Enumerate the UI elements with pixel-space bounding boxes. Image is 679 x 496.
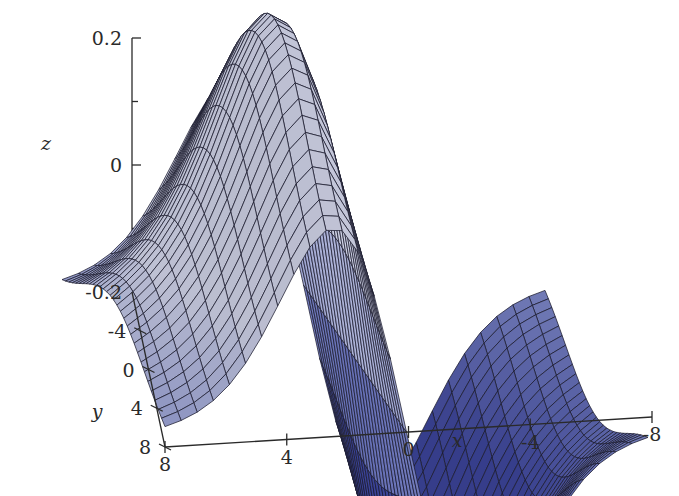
svg-text:0: 0 (402, 438, 414, 460)
svg-text:8: 8 (139, 436, 151, 458)
svg-text:-0.2: -0.2 (85, 281, 122, 303)
svg-text:0: 0 (110, 154, 122, 176)
svg-text:x: x (452, 429, 463, 451)
svg-text:-4: -4 (521, 431, 540, 453)
surface-plot-figure: 0.20-0.2z-4048y840-4-8x (0, 0, 679, 496)
svg-text:0: 0 (122, 359, 134, 381)
svg-text:0.2: 0.2 (92, 27, 122, 49)
svg-text:-4: -4 (108, 320, 127, 342)
svg-text:8: 8 (159, 453, 171, 475)
svg-text:4: 4 (131, 397, 143, 419)
surface-mesh (62, 13, 648, 496)
svg-text:z: z (40, 132, 52, 154)
svg-text:y: y (91, 400, 103, 422)
plot-canvas: 0.20-0.2z-4048y840-4-8x (0, 0, 679, 496)
svg-text:-8: -8 (643, 423, 662, 445)
svg-text:4: 4 (281, 446, 293, 468)
